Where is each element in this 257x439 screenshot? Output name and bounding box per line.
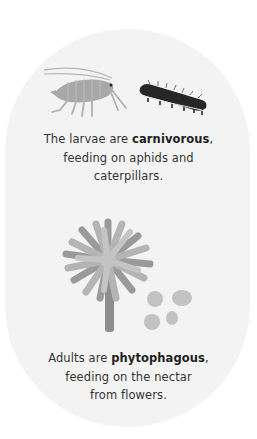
larvae-description: The larvae are carnivorous, feeding on a… xyxy=(0,130,257,186)
caterpillar-icon xyxy=(136,80,212,118)
phytophagous-keyword: phytophagous xyxy=(111,351,205,365)
aphid-icon xyxy=(42,62,132,120)
adults-description: Adults are phytophagous, feeding on the … xyxy=(0,349,257,405)
pollen-icon xyxy=(140,288,196,334)
carnivorous-keyword: carnivorous xyxy=(132,132,209,146)
